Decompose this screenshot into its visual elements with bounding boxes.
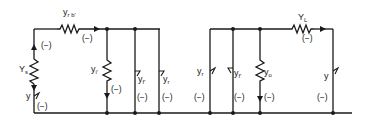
label-yo: yo [264, 67, 273, 78]
sign-yo: (−) [264, 92, 275, 102]
label-yf: yf' [138, 74, 145, 85]
circuit-diagram: Ys (−) y (−) yr b' (−) yi' (−) yf' (−) y… [0, 0, 367, 123]
label-yr: yr [163, 74, 170, 85]
arrow-right-icon [320, 26, 326, 32]
arrow-down-icon [104, 93, 110, 99]
label-YL: YL [298, 12, 308, 23]
label-yr2: yr [197, 66, 204, 77]
sign-yr2: (−) [194, 92, 205, 102]
current-source-yf2-icon [228, 68, 233, 73]
sign-top-left: (−) [41, 40, 52, 50]
resistor-yo-icon [256, 57, 264, 83]
arrow-down-icon [257, 96, 263, 102]
label-y-out: y [324, 71, 329, 81]
resistor-yi-icon [103, 57, 111, 83]
sign-YL: (−) [302, 33, 313, 43]
resistor-Ys-icon [30, 56, 38, 84]
label-y-source: y [26, 91, 31, 101]
arrow-up-icon [31, 44, 37, 50]
arrow-right-icon [94, 26, 100, 32]
sign-yrb: (−) [82, 33, 93, 43]
current-source-yout-icon [333, 68, 338, 74]
label-yi: yi' [91, 64, 98, 75]
sign-yr: (−) [162, 92, 173, 102]
current-source-yr2-icon [210, 68, 215, 74]
label-Ys: Ys [19, 64, 28, 75]
sign-yf: (−) [137, 92, 148, 102]
resistor-YL-icon [289, 25, 314, 33]
sign-y-out: (−) [317, 92, 328, 102]
label-yrb: yr b' [63, 7, 76, 18]
sign-yi: (−) [111, 84, 122, 94]
sign-yf2: (−) [234, 92, 245, 102]
arrow-down-icon [31, 85, 37, 91]
sign-y-source: (−) [37, 101, 48, 111]
current-source-y-icon [34, 93, 39, 99]
resistor-yrb-icon [57, 25, 82, 33]
label-yf2: yf' [234, 68, 241, 79]
